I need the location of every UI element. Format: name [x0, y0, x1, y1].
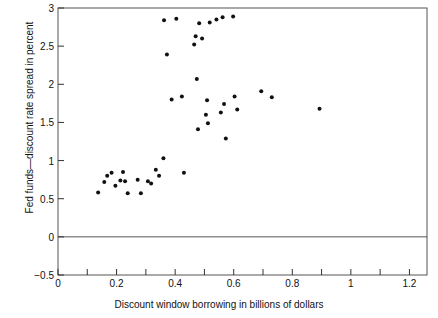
data-point: [146, 179, 150, 183]
data-point: [233, 94, 237, 98]
data-point: [162, 18, 166, 22]
data-point: [318, 107, 322, 111]
data-point: [123, 179, 127, 183]
x-axis-tick-label: 0: [55, 278, 61, 289]
data-point: [200, 37, 204, 41]
data-point: [196, 127, 200, 131]
data-point: [157, 174, 161, 178]
data-point: [165, 53, 169, 57]
data-point: [149, 181, 153, 185]
x-axis-tick-label: 0.4: [168, 278, 182, 289]
data-point: [182, 171, 186, 175]
data-point: [221, 15, 225, 19]
data-point: [126, 191, 130, 195]
x-axis-tick-label: 0.2: [110, 278, 124, 289]
data-point: [139, 191, 143, 195]
y-axis-tick-label: −0.5: [20, 270, 54, 281]
data-point: [161, 156, 165, 160]
data-point: [222, 102, 226, 106]
data-point: [204, 113, 208, 117]
data-point: [170, 98, 174, 102]
data-point: [224, 136, 228, 140]
data-point: [102, 180, 106, 184]
data-point: [121, 170, 125, 174]
data-point: [113, 184, 117, 188]
data-point: [197, 21, 201, 25]
data-point: [206, 121, 210, 125]
data-point: [154, 168, 158, 172]
data-point: [110, 171, 114, 175]
data-point: [96, 191, 100, 195]
scatter-chart: [0, 0, 438, 318]
data-point: [174, 17, 178, 21]
x-axis-tick-label: 1.2: [402, 278, 416, 289]
y-axis-title: Fed funds—discount rate spread in percen…: [24, 0, 35, 243]
data-point: [208, 20, 212, 24]
x-axis-tick-label: 0.8: [285, 278, 299, 289]
x-axis-tick-label: 1: [348, 278, 354, 289]
data-point: [205, 98, 209, 102]
x-axis-title: Discount window borrowing in billions of…: [0, 299, 438, 310]
data-point: [192, 43, 196, 47]
data-point: [235, 107, 239, 111]
chart-background: [0, 0, 438, 318]
data-point: [259, 89, 263, 93]
data-point: [270, 95, 274, 99]
data-point: [195, 77, 199, 81]
data-point: [219, 111, 223, 115]
data-point: [136, 178, 140, 182]
data-point: [194, 34, 198, 38]
data-point: [231, 14, 235, 18]
data-point: [105, 174, 109, 178]
data-point: [180, 94, 184, 98]
data-point: [118, 178, 122, 182]
x-axis-tick-label: 0.6: [227, 278, 241, 289]
data-point: [214, 17, 218, 21]
